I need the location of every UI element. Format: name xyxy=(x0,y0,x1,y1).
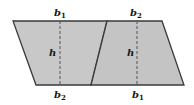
right-bottom-label: b1 xyxy=(132,89,144,102)
left-top-label: b1 xyxy=(54,7,66,20)
right-top-label: b2 xyxy=(130,7,142,20)
right-height-label: h xyxy=(127,47,134,58)
parallelogram-diagram: b1 b2 h b2 b1 h xyxy=(0,0,194,105)
left-height-label: h xyxy=(49,47,56,58)
left-bottom-label: b2 xyxy=(54,89,66,102)
